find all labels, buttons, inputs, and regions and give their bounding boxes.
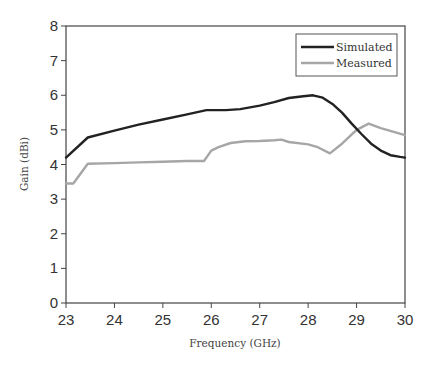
x-tick-label: 27 xyxy=(251,311,268,328)
x-axis-title: Frequency (GHz) xyxy=(189,337,280,349)
y-tick-label: 4 xyxy=(50,156,58,173)
legend: Simulated Measured xyxy=(296,34,397,76)
gain-vs-frequency-chart: 012345678 2324252627282930 Gain (dBi) Fr… xyxy=(0,0,432,366)
y-tick-label: 3 xyxy=(50,190,58,207)
legend-label-measured: Measured xyxy=(336,57,392,70)
y-tick-label: 6 xyxy=(50,86,58,103)
x-tick-label: 28 xyxy=(300,311,317,328)
x-axis: 2324252627282930 xyxy=(58,303,414,328)
series-line-measured xyxy=(66,124,405,184)
y-tick-label: 5 xyxy=(50,121,58,138)
y-axis: 012345678 xyxy=(50,17,66,311)
series-layer xyxy=(66,95,405,183)
y-tick-label: 1 xyxy=(50,259,58,276)
y-tick-label: 2 xyxy=(50,225,58,242)
y-tick-label: 0 xyxy=(50,294,58,311)
x-tick-label: 26 xyxy=(203,311,220,328)
x-tick-label: 25 xyxy=(155,311,172,328)
x-tick-label: 23 xyxy=(58,311,75,328)
y-tick-label: 8 xyxy=(50,17,58,34)
y-tick-label: 7 xyxy=(50,52,58,69)
legend-label-simulated: Simulated xyxy=(336,41,393,54)
series-line-simulated xyxy=(66,95,405,157)
x-tick-label: 29 xyxy=(348,311,365,328)
y-axis-title: Gain (dBi) xyxy=(18,137,30,191)
x-tick-label: 30 xyxy=(397,311,414,328)
x-tick-label: 24 xyxy=(106,311,123,328)
